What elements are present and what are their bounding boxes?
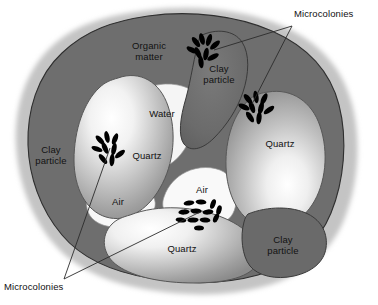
diagram-canvas	[0, 0, 378, 305]
soil-aggregate-diagram: Organic matter Clay particle Clay partic…	[0, 0, 378, 305]
clay-particle-bottom-right	[242, 208, 326, 278]
